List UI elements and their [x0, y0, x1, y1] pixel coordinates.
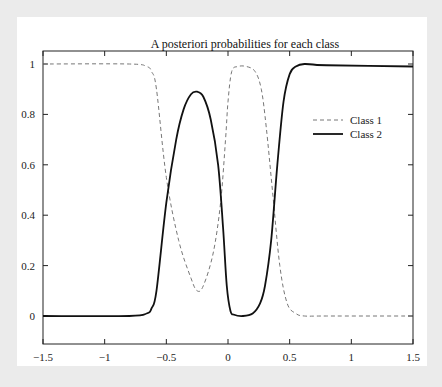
x-tick-label: 0 — [225, 351, 231, 363]
x-tick-label: 1.5 — [406, 351, 420, 363]
x-tick-label: −1.5 — [33, 351, 53, 363]
x-tick-label: 1 — [349, 351, 355, 363]
figure-panel: A posteriori probabilities for each clas… — [17, 17, 427, 366]
legend-label: Class 2 — [350, 128, 382, 140]
y-tick-label: 0.4 — [21, 209, 35, 221]
y-tick-label: 0.2 — [21, 260, 35, 272]
y-tick-label: 0.6 — [21, 159, 35, 171]
x-tick-label: −1 — [99, 351, 111, 363]
x-tick-label: −0.5 — [156, 351, 176, 363]
y-tick-label: 1 — [30, 58, 36, 70]
x-tick-label: 0.5 — [283, 351, 297, 363]
series-line-class-1 — [43, 64, 413, 316]
y-tick-label: 0 — [30, 310, 36, 322]
y-tick-label: 0.8 — [21, 108, 35, 120]
legend-label: Class 1 — [350, 114, 382, 126]
plot-area: −1.5−1−0.500.511.500.20.40.60.81Class 1C… — [17, 17, 427, 366]
